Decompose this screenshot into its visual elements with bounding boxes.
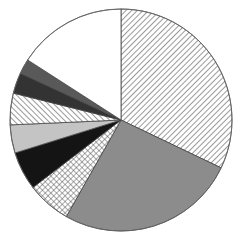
pie-chart — [0, 0, 243, 238]
pie-slices — [10, 9, 232, 231]
